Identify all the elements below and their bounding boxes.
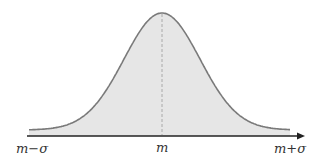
label-m-plus-sigma: m+σ bbox=[274, 141, 306, 156]
label-mean: m bbox=[156, 140, 168, 155]
label-m-minus-sigma: m−σ bbox=[16, 141, 48, 156]
axis-arrowhead-icon bbox=[297, 133, 305, 140]
shaded-area bbox=[29, 13, 290, 136]
